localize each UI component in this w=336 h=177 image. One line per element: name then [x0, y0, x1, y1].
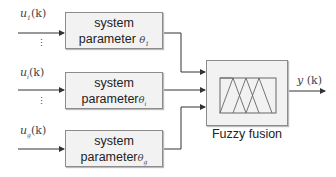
ellipsis-2: ⋮ [37, 100, 43, 103]
system-label: system [66, 15, 162, 31]
parameter-label: parameter [82, 92, 139, 106]
output-label: y (k) [297, 74, 322, 87]
theta-symbol: θg [138, 152, 148, 163]
ellipsis-1: ⋮ [37, 42, 43, 45]
parameter-label: parameter [81, 150, 138, 164]
input-label-i: ui(k) [20, 66, 44, 80]
fuzzy-fusion-block [206, 60, 288, 126]
input-label-g: ug(k) [20, 124, 46, 138]
system-block-i: system parameterθi [65, 72, 163, 109]
input-label-1: u1(k) [20, 7, 46, 21]
fuzzy-fusion-label: Fuzzy fusion [206, 127, 288, 141]
membership-functions-icon [207, 61, 287, 125]
system-label: system [66, 133, 162, 149]
theta-symbol: θi [139, 94, 147, 105]
parameter-label: parameter [79, 32, 136, 46]
theta-symbol: θ1 [139, 34, 149, 45]
system-label: system [66, 75, 162, 91]
system-block-1: system parameter θ1 [65, 12, 163, 49]
system-block-g: system parameterθg [65, 130, 163, 167]
